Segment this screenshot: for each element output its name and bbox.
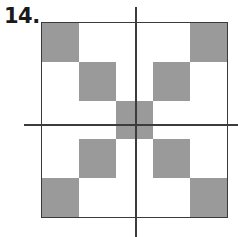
shaded-grid-cell	[42, 23, 79, 62]
shaded-grid-cell	[153, 139, 190, 178]
blank-grid-cell	[42, 101, 79, 140]
shaded-grid-cell	[79, 139, 116, 178]
shaded-grid-cell	[79, 62, 116, 101]
problem-number-label: 14.	[4, 6, 40, 27]
blank-grid-cell	[190, 62, 227, 101]
shaded-grid-cell	[190, 23, 227, 62]
blank-grid-cell	[153, 178, 190, 217]
shaded-grid-cell	[190, 178, 227, 217]
blank-grid-cell	[79, 101, 116, 140]
blank-grid-cell	[153, 101, 190, 140]
shaded-grid-cell	[153, 62, 190, 101]
blank-grid-cell	[42, 62, 79, 101]
blank-grid-cell	[190, 139, 227, 178]
blank-grid-cell	[79, 23, 116, 62]
blank-grid-cell	[190, 101, 227, 140]
figure-container: 14.	[0, 0, 238, 237]
blank-grid-cell	[153, 23, 190, 62]
horizontal-symmetry-axis-line	[24, 124, 238, 126]
shaded-grid-cell	[42, 178, 79, 217]
vertical-symmetry-axis-line	[135, 7, 137, 237]
blank-grid-cell	[42, 139, 79, 178]
blank-grid-cell	[79, 178, 116, 217]
